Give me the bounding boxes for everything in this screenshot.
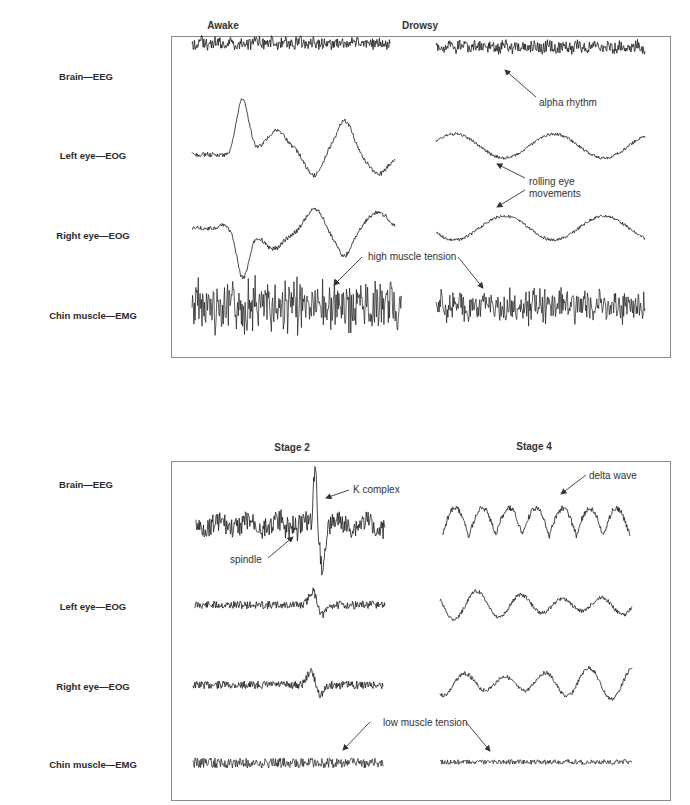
annotation-k-complex: K complex <box>353 484 400 496</box>
row-label-right-eog-top: Right eye—EOG <box>56 230 129 241</box>
annotation-low-muscle-tension: low muscle tension <box>383 717 467 729</box>
row-label-left-eog-bottom: Left eye—EOG <box>60 601 127 612</box>
annotation-rolling-eye-2: movements <box>529 188 581 200</box>
row-label-left-eog-top: Left eye—EOG <box>60 150 127 161</box>
column-title-stage2: Stage 2 <box>274 442 310 453</box>
annotation-rolling-eye-1: rolling eye <box>529 176 575 188</box>
row-label-eeg-bottom: Brain—EEG <box>59 479 113 490</box>
top-panel <box>171 36 671 358</box>
row-label-emg-top: Chin muscle—EMG <box>49 310 137 321</box>
row-label-eeg-top: Brain—EEG <box>59 71 113 82</box>
annotation-delta-wave: delta wave <box>589 470 637 482</box>
row-label-emg-bottom: Chin muscle—EMG <box>49 759 137 770</box>
annotation-spindle: spindle <box>230 554 262 566</box>
row-label-right-eog-bottom: Right eye—EOG <box>56 681 129 692</box>
annotation-alpha-rhythm: alpha rhythm <box>539 97 597 109</box>
column-title-awake: Awake <box>207 20 239 31</box>
bottom-panel <box>171 461 671 801</box>
annotation-high-muscle-tension: high muscle tension <box>368 251 456 263</box>
column-title-stage4: Stage 4 <box>516 441 552 452</box>
column-title-drowsy: Drowsy <box>402 20 438 31</box>
